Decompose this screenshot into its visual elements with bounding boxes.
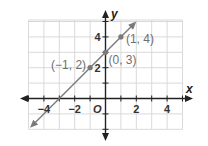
y-tick-label: 2 <box>94 62 100 74</box>
data-point <box>103 50 108 55</box>
y-axis-label: y <box>110 7 119 21</box>
x-axis-label: x <box>185 82 194 96</box>
data-point <box>88 65 93 70</box>
x-tick-label: −4 <box>38 103 51 115</box>
point-label: (1, 4) <box>126 32 154 46</box>
x-axis-left-arrow-icon <box>20 95 28 102</box>
x-tick-label: 4 <box>164 103 171 115</box>
origin-label: O <box>93 103 102 115</box>
y-tick-label: 4 <box>94 31 101 43</box>
data-point <box>118 34 123 39</box>
y-axis-bottom-arrow-icon <box>102 133 109 141</box>
point-label: (0, 3) <box>109 53 137 67</box>
coordinate-plane: x y O −4−22424(−1, 2)(0, 3)(1, 4) <box>0 0 208 146</box>
y-axis-top-arrow-icon <box>102 10 109 18</box>
x-tick-label: 2 <box>133 103 139 115</box>
x-tick-label: −2 <box>68 103 81 115</box>
x-axis-right-arrow-icon <box>185 95 193 102</box>
point-label: (−1, 2) <box>51 58 86 72</box>
